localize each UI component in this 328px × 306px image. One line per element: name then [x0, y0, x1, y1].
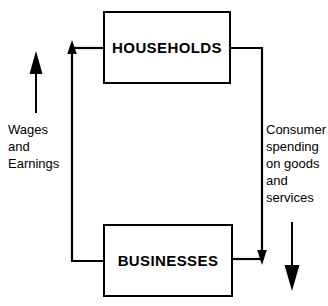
consumer-spending-connector-line — [231, 48, 262, 254]
node-households-label: HOUSEHOLDS — [112, 40, 222, 55]
consumer-spending-direction-arrow-icon — [285, 222, 300, 291]
wages-connector-path — [67, 40, 104, 261]
node-households[interactable]: HOUSEHOLDS — [103, 11, 231, 84]
node-businesses-label: BUSINESSES — [118, 253, 219, 268]
wages-connector-line — [72, 48, 104, 261]
circular-flow-diagram: HOUSEHOLDS BUSINESSES Wages and Earnings… — [0, 0, 328, 306]
wages-direction-arrow-icon — [30, 51, 43, 113]
consumer-spending-direction-arrow-head — [285, 265, 300, 291]
consumer-spending-connector-path — [231, 48, 267, 265]
node-businesses[interactable]: BUSINESSES — [103, 224, 233, 297]
consumer-spending-connector-arrowhead-icon — [257, 250, 267, 265]
consumer-spending-flow-label: Consumer spending on goods and services — [266, 121, 326, 206]
wages-direction-arrow-head — [30, 51, 43, 74]
wages-flow-label: Wages and Earnings — [8, 121, 59, 172]
